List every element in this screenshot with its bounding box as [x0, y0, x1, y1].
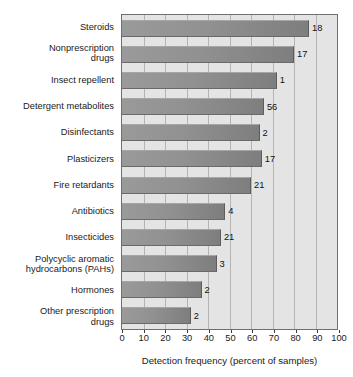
bar-value-label: 2 — [205, 285, 210, 295]
bars-container: 181715621721421322 — [122, 15, 337, 329]
category-label: Hormones — [0, 277, 118, 303]
bar-value-label: 4 — [228, 206, 233, 216]
x-tick-label: 0 — [119, 333, 124, 344]
bar-value-label: 1 — [280, 75, 285, 85]
bar-row: 21 — [122, 224, 337, 250]
bar — [122, 177, 251, 194]
x-axis-title: Detection frequency (percent of samples) — [121, 355, 338, 366]
category-label: Antibiotics — [0, 198, 118, 224]
category-label: Plasticizers — [0, 146, 118, 172]
bar-row: 17 — [122, 146, 337, 172]
x-tick-label: 40 — [204, 333, 214, 344]
bar-value-label: 2 — [194, 311, 199, 321]
x-tick-label: 30 — [182, 333, 192, 344]
bar-row: 2 — [122, 277, 337, 303]
bar — [122, 203, 225, 220]
bar — [122, 46, 294, 63]
category-label: Detergent metabolites — [0, 93, 118, 119]
x-tick-label: 90 — [312, 333, 322, 344]
gridline — [337, 15, 338, 329]
category-label: Other prescription drugs — [0, 304, 118, 330]
bar-value-label: 18 — [312, 23, 322, 33]
x-tick-label: 80 — [290, 333, 300, 344]
bar-row: 56 — [122, 94, 337, 120]
category-label: Steroids — [0, 14, 118, 40]
bar-row: 3 — [122, 251, 337, 277]
category-label: Insecticides — [0, 225, 118, 251]
x-tick-label: 60 — [247, 333, 257, 344]
category-label: Fire retardants — [0, 172, 118, 198]
bar-row: 21 — [122, 172, 337, 198]
bar — [122, 281, 202, 298]
bar — [122, 124, 260, 141]
category-axis-labels: SteroidsNonprescription drugsInsect repe… — [0, 14, 118, 330]
plot-area: 181715621721421322 — [121, 14, 338, 330]
bar-row: 1 — [122, 67, 337, 93]
category-label: Insect repellent — [0, 67, 118, 93]
bar-row: 4 — [122, 198, 337, 224]
bar-value-label: 21 — [224, 232, 234, 242]
x-tick-label: 50 — [225, 333, 235, 344]
category-label: Polycyclic aromatic hydrocarbons (PAHs) — [0, 251, 118, 277]
bar-row: 2 — [122, 303, 337, 329]
x-tick-label: 10 — [139, 333, 149, 344]
bar-value-label: 56 — [267, 102, 277, 112]
bar — [122, 229, 221, 246]
bar-value-label: 3 — [220, 259, 225, 269]
x-axis: 0102030405060708090100 — [121, 330, 338, 346]
bar — [122, 255, 217, 272]
bar — [122, 150, 262, 167]
x-tick-label: 100 — [331, 333, 347, 344]
bar — [122, 20, 309, 37]
bar — [122, 72, 277, 89]
bar-row: 18 — [122, 15, 337, 41]
bar-row: 2 — [122, 120, 337, 146]
x-tick-label: 70 — [269, 333, 279, 344]
bar-value-label: 21 — [254, 180, 264, 190]
bar-value-label: 17 — [297, 49, 307, 59]
bar — [122, 98, 264, 115]
category-label: Disinfectants — [0, 119, 118, 145]
bar-value-label: 17 — [265, 154, 275, 164]
bar-row: 17 — [122, 41, 337, 67]
bar-chart: SteroidsNonprescription drugsInsect repe… — [0, 0, 353, 377]
category-label: Nonprescription drugs — [0, 40, 118, 66]
bar — [122, 307, 191, 324]
x-tick-label: 20 — [160, 333, 170, 344]
bar-value-label: 2 — [263, 128, 268, 138]
